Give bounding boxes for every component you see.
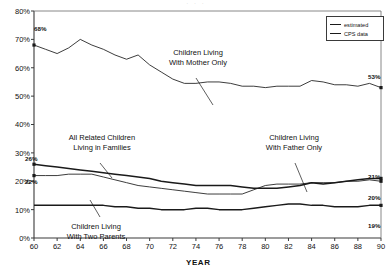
point-label-two-parents-end: 20% — [368, 194, 380, 201]
annotation-mother-only: Children Living With Mother Only — [146, 48, 250, 67]
y-tick-label: 50% — [0, 92, 30, 101]
x-tick-label: 66 — [93, 242, 113, 251]
legend-line-icon — [330, 24, 341, 25]
annotation-father-only: Children Living With Father Only — [242, 133, 346, 152]
annotation-line: Children Living — [71, 222, 121, 231]
y-tick-label: 80% — [0, 7, 30, 16]
x-tick-label: 78 — [232, 242, 252, 251]
annotation-all-related: All Related Children Living in Families — [47, 133, 157, 152]
x-tick-label: 88 — [348, 242, 368, 251]
annotation-line: Children Living — [173, 48, 223, 57]
legend-label: CPS data — [344, 31, 368, 37]
point-label-all-related-start: 26% — [25, 155, 37, 162]
x-tick-label: 90 — [371, 242, 391, 251]
x-tick-label: 74 — [186, 242, 206, 251]
chart-root: · · · 80% 70% 60% 50% 40% 30% 20% 10% 0%… — [0, 0, 392, 274]
x-tick-label: 70 — [140, 242, 160, 251]
x-tick-label: 72 — [163, 242, 183, 251]
point-label-all-related-end: 21% — [368, 173, 380, 180]
x-tick-label: 84 — [302, 242, 322, 251]
legend-item-cps-data: CPS data — [330, 29, 380, 38]
chart-legend: estimated CPS data — [326, 16, 384, 41]
x-tick-label: 60 — [24, 242, 44, 251]
point-label-father-end: 19% — [368, 222, 380, 229]
series-endpoint-marker — [379, 86, 382, 89]
series-line — [34, 204, 381, 210]
y-tick-label: 10% — [0, 206, 30, 215]
annotation-two-parents: Children Living With Two Parents — [44, 222, 148, 241]
annotation-line: With Father Only — [266, 143, 322, 152]
annotation-line: With Mother Only — [169, 58, 227, 67]
point-label-two-parents-start: 22% — [25, 178, 37, 185]
series-endpoint-marker — [32, 43, 35, 46]
x-tick-label: 62 — [47, 242, 67, 251]
x-axis-title: YEAR — [186, 258, 211, 267]
x-tick-label: 76 — [209, 242, 229, 251]
annotation-line: Living in Families — [73, 143, 131, 152]
series-endpoint-marker — [32, 163, 35, 166]
x-tick-label: 64 — [70, 242, 90, 251]
y-tick-label: 70% — [0, 35, 30, 44]
series-line — [34, 164, 381, 188]
legend-line-icon — [330, 33, 341, 34]
x-tick-label: 80 — [255, 242, 275, 251]
point-label-mother-start: 68% — [34, 25, 46, 32]
x-tick-label: 82 — [278, 242, 298, 251]
legend-item-estimated: estimated — [330, 20, 380, 29]
legend-label: estimated — [344, 22, 368, 28]
annotation-line: With Two Parents — [67, 232, 126, 241]
axis-lines — [34, 11, 381, 238]
y-tick-label: 60% — [0, 64, 30, 73]
y-tick-label: 40% — [0, 120, 30, 129]
x-tick-label: 68 — [117, 242, 137, 251]
series-endpoint-marker — [379, 204, 382, 207]
series-endpoint-marker — [32, 174, 35, 177]
series-endpoint-marker — [379, 180, 382, 183]
annotation-line: All Related Children — [69, 133, 135, 142]
annotation-line: Children Living — [269, 133, 319, 142]
point-label-mother-end: 53% — [368, 73, 380, 80]
x-tick-label: 86 — [325, 242, 345, 251]
